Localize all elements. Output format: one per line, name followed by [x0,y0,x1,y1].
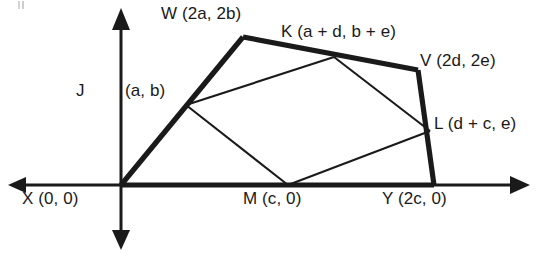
segment-m-j [186,105,288,185]
vertex-label-w: W (2a, 2b) [161,4,241,23]
vertex-label-y: Y (2c, 0) [382,189,447,208]
y-axis-bottom-arrowhead [112,230,130,250]
x-axis-right-arrowhead [510,176,530,194]
outer-quadrilateral-xwvy [121,37,434,185]
segment-v-y [418,70,434,185]
segment-w-v [243,37,418,70]
coordinate-geometry-figure: W (2a, 2b) K (a + d, b + e) V (2d, 2e) L… [0,0,543,256]
vertex-label-v: V (2d, 2e) [420,51,496,70]
y-axis-top-arrowhead [112,8,130,30]
vertex-label-j-coords: (a, b) [125,81,165,100]
vertex-label-x: X (0, 0) [22,189,79,208]
inner-quadrilateral-jklm [186,57,430,185]
vertex-label-l: L (d + c, e) [434,114,516,133]
vertex-label-k: K (a + d, b + e) [281,22,396,41]
segment-l-m [288,131,430,185]
segment-x-w [121,37,243,185]
vertex-label-m: M (c, 0) [243,189,301,208]
vertex-label-j-name: J [76,81,85,100]
